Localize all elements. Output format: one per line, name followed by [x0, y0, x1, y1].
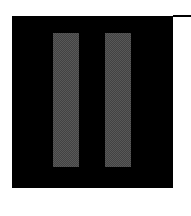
divider-line: [173, 15, 191, 17]
pause-bar-right: [105, 33, 131, 167]
pause-button[interactable]: Pause: [12, 16, 173, 188]
pause-bar-left: [53, 33, 79, 167]
